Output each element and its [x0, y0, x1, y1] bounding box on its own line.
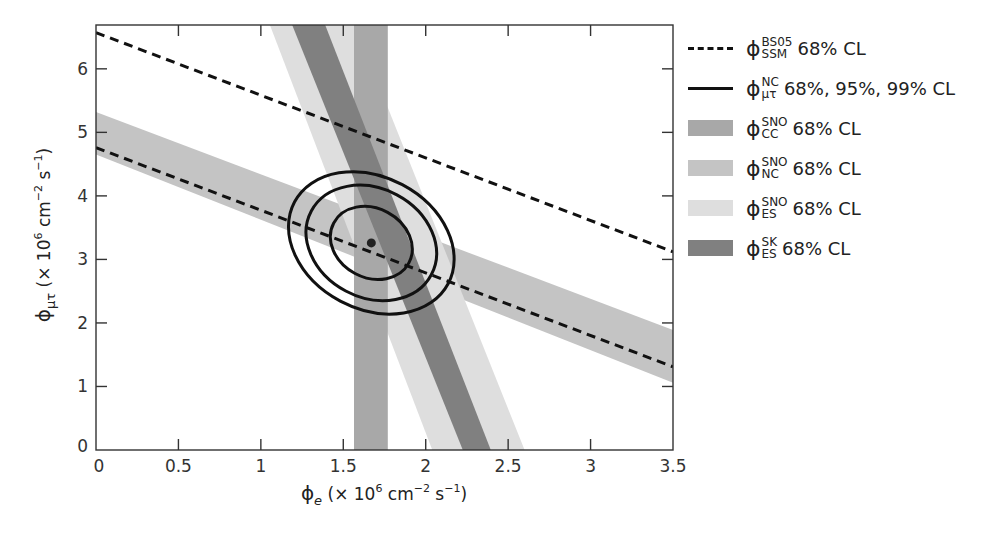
legend-swatch: [688, 160, 733, 176]
legend-label: ϕSKES68% CL: [746, 236, 850, 261]
x-tick-label: 1.5: [330, 456, 357, 476]
legend-solid-line: [688, 87, 733, 90]
legend-swatch: [688, 120, 733, 136]
legend-item: ϕSNONC68% CL: [688, 148, 955, 188]
y-tick-label: 4: [77, 186, 88, 206]
y-tick-label: 1: [77, 376, 88, 396]
legend-item: ϕSKES68% CL: [688, 228, 955, 268]
legend-label: ϕSNOCC68% CL: [746, 116, 861, 141]
x-tick-label: 0: [94, 456, 105, 476]
y-tick-label: 6: [77, 59, 88, 79]
legend-label: ϕBS05SSM68% CL: [746, 36, 866, 61]
bands: [96, 25, 673, 450]
legend-swatch: [688, 240, 733, 256]
x-axis-label: ϕe (× 106 cm−2 s−1): [301, 481, 467, 508]
x-tick-label: 3: [585, 456, 596, 476]
y-tick-label: 5: [77, 122, 88, 142]
legend-item: ϕSNOES68% CL: [688, 188, 955, 228]
y-tick-label: 3: [77, 249, 88, 269]
legend-label: ϕNCμτ68%, 95%, 99% CL: [746, 76, 955, 101]
x-tick-label: 2: [420, 456, 431, 476]
legend-item: ϕSNOCC68% CL: [688, 108, 955, 148]
y-axis-label: ϕμτ (× 106 cm−2 s−1): [31, 148, 58, 322]
y-tick-label: 0: [77, 436, 88, 456]
x-tick-label: 2.5: [495, 456, 522, 476]
y-tick-label: 2: [77, 313, 88, 333]
x-tick-label: 0.5: [165, 456, 192, 476]
best-fit-point: [367, 238, 376, 247]
legend-swatch: [688, 200, 733, 216]
x-tick-label: 1: [255, 456, 266, 476]
legend-label: ϕSNONC68% CL: [746, 156, 861, 181]
x-tick-label: 3.5: [659, 456, 686, 476]
legend-item: ϕNCμτ68%, 95%, 99% CL: [688, 68, 955, 108]
legend-item: ϕBS05SSM68% CL: [688, 28, 955, 68]
legend-dashed-line: [688, 47, 733, 50]
legend-label: ϕSNOES68% CL: [746, 196, 861, 221]
plot-area: [96, 25, 673, 450]
legend: ϕBS05SSM68% CLϕNCμτ68%, 95%, 99% CLϕSNOC…: [688, 28, 955, 268]
